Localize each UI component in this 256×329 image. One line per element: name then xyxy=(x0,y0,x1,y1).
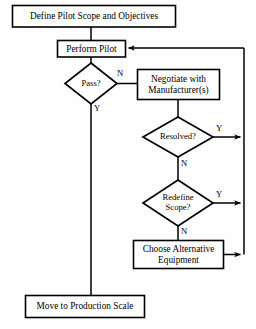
node-move-production-shape xyxy=(26,296,145,318)
node-define-scope-shape xyxy=(13,6,176,28)
node-choose-alternative-shape xyxy=(134,241,224,269)
flowchart-canvas: Define Pilot Scope and Objectives Perfor… xyxy=(0,0,256,329)
node-perform-pilot-shape xyxy=(58,41,126,58)
node-redefine-scope-shape xyxy=(143,180,213,226)
node-pass-shape xyxy=(65,63,117,104)
node-resolved-shape xyxy=(143,117,213,157)
node-negotiate-shape xyxy=(138,70,220,100)
flowchart-svg xyxy=(0,0,256,329)
